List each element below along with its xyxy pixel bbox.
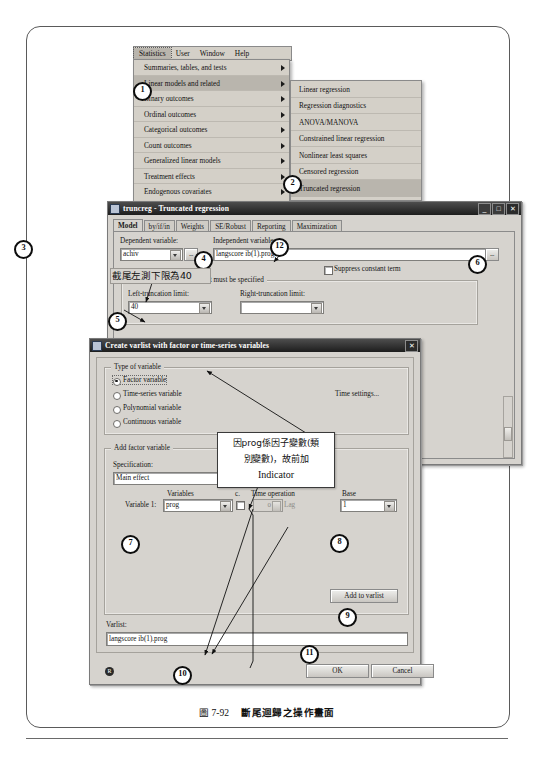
close-icon[interactable]: ✕ <box>506 203 519 215</box>
varlist-title: Create varlist with factor or time-serie… <box>105 341 269 350</box>
callout-3: 3 <box>14 240 33 259</box>
chevron-down-icon[interactable] <box>311 303 322 314</box>
chevron-down-icon[interactable] <box>199 303 210 314</box>
maximize-icon[interactable]: □ <box>492 203 505 215</box>
independent-variables-input[interactable]: langscore ib(1).prog <box>213 248 487 261</box>
callout-9: 9 <box>338 608 357 627</box>
menu-item-summaries[interactable]: Summaries, tables, and tests <box>134 60 289 76</box>
submenu-item-truncated-regression[interactable]: Truncated regression <box>291 180 421 197</box>
submenu-item-regression-diagnostics[interactable]: Regression diagnostics <box>291 98 421 115</box>
menu-item-glm[interactable]: Generalized linear models <box>134 153 289 169</box>
specification-label: Specification: <box>113 461 153 469</box>
truncreg-title: truncreg - Truncated regression <box>123 204 229 213</box>
right-truncation-select[interactable] <box>240 301 324 314</box>
menubar-item-window[interactable]: Window <box>195 48 230 59</box>
radio-time-series-variable[interactable]: Time-series variable <box>113 390 182 398</box>
menu-item-label: Truncated regression <box>299 184 360 193</box>
cancel-button[interactable]: Cancel <box>371 664 434 678</box>
window-controls[interactable]: _ □ ✕ <box>478 203 519 215</box>
truncreg-titlebar[interactable]: truncreg - Truncated regression _ □ ✕ <box>108 202 521 215</box>
annotation-line-3: Indicator <box>218 467 334 483</box>
dependent-variable-select[interactable]: achiv <box>120 248 183 261</box>
menu-item-label: Categorical outcomes <box>144 125 207 134</box>
menu-item-label: Censored regression <box>299 167 358 176</box>
menu-item-label: Nonlinear least squares <box>299 151 367 160</box>
figure-number: 圖 7-92 <box>199 707 229 718</box>
menu-item-label: Summaries, tables, and tests <box>144 63 226 72</box>
menu-item-label: Constrained linear regression <box>299 134 385 143</box>
menu-item-label: Ordinal outcomes <box>144 110 196 119</box>
spinner-arrows-icon[interactable] <box>272 501 281 512</box>
submenu-item-linear-regression[interactable]: Linear regression <box>291 81 421 98</box>
column-header-c: c. <box>235 490 240 498</box>
varlist-input[interactable]: langscore ib(1).prog <box>106 632 408 646</box>
variable-1-value: prog <box>166 500 179 511</box>
menubar-item-user[interactable]: User <box>171 48 195 59</box>
scrollbar-thumb[interactable] <box>504 427 512 441</box>
independent-variables-label: Independent variables: <box>213 237 278 245</box>
callout-2: 2 <box>283 175 302 194</box>
column-header-base: Base <box>342 490 356 498</box>
annotation-line-1: 因prog係因子變數(類 <box>218 435 334 451</box>
menu-item-categorical-outcomes[interactable]: Categorical outcomes <box>134 122 289 138</box>
close-icon[interactable]: ✕ <box>405 340 418 352</box>
submenu-item-censored-regression[interactable]: Censored regression <box>291 164 421 181</box>
window-controls[interactable]: ✕ <box>405 340 418 352</box>
lag-value: 0 <box>268 500 272 511</box>
left-truncation-select[interactable]: 40 <box>128 301 212 314</box>
submenu-item-constrained-linear-regression[interactable]: Constrained linear regression <box>291 131 421 148</box>
submenu-arrow-icon <box>281 96 285 102</box>
submenu-item-anova-manova[interactable]: ANOVA/MANOVA <box>291 114 421 131</box>
callout-6: 6 <box>468 255 487 274</box>
suppress-constant-checkbox[interactable]: Suppress constant term <box>324 265 401 273</box>
annotation-line-2: 別變數)，故前加 <box>218 451 334 467</box>
chevron-down-icon[interactable] <box>170 250 181 261</box>
radio-factor-variable[interactable]: Factor variable <box>113 376 166 384</box>
callout-5: 5 <box>108 312 127 331</box>
stata-window-icon <box>110 204 120 214</box>
radio-continuous-variable[interactable]: Continuous variable <box>113 418 181 426</box>
page-footer-rule <box>26 738 508 739</box>
menu-item-count-outcomes[interactable]: Count outcomes <box>134 138 289 154</box>
variable-1-select[interactable]: prog <box>163 499 233 512</box>
varlist-titlebar[interactable]: Create varlist with factor or time-serie… <box>90 339 420 352</box>
chevron-down-icon[interactable] <box>220 501 231 512</box>
add-factor-variable-title: Add factor variable <box>111 444 173 452</box>
menu-item-label: Count outcomes <box>144 141 192 150</box>
menu-item-label: Linear regression <box>299 85 350 94</box>
chevron-down-icon[interactable] <box>384 501 395 512</box>
factor-variable-annotation: 因prog係因子變數(類 別變數)，故前加 Indicator <box>217 432 335 488</box>
menu-item-endogenous-covariates[interactable]: Endogenous covariates <box>134 184 289 200</box>
dependent-variable-label: Dependent variable: <box>120 237 178 245</box>
radio-polynomial-variable[interactable]: Polynomial variable <box>113 404 181 412</box>
column-header-variables: Variables <box>167 490 194 498</box>
variable-1-lag-spinner[interactable]: 0 <box>253 499 283 512</box>
linear-models-submenu[interactable]: Linear regression Regression diagnostics… <box>290 80 422 201</box>
menu-item-binary-outcomes[interactable]: Binary outcomes <box>134 91 289 107</box>
statistics-menu[interactable]: Summaries, tables, and tests Linear mode… <box>133 59 290 203</box>
ok-button[interactable]: OK <box>306 664 369 678</box>
menu-item-label: Linear models and related <box>144 79 220 88</box>
specification-value: Main effect <box>116 473 149 484</box>
stata-window-icon <box>92 341 102 351</box>
screenshot-page: Statistics User Window Help Summaries, t… <box>0 0 534 781</box>
menu-item-label: Binary outcomes <box>144 94 194 103</box>
submenu-arrow-icon <box>281 158 285 164</box>
time-settings-button[interactable]: Time settings... <box>335 390 379 398</box>
minimize-icon[interactable]: _ <box>478 203 491 215</box>
figure-title: 斷尾迴歸之操作畫面 <box>241 707 335 718</box>
callout-8: 8 <box>330 534 349 553</box>
menubar-item-statistics[interactable]: Statistics <box>134 48 171 59</box>
variable-1-base-select[interactable]: 1 <box>340 499 397 512</box>
figure-caption: 圖 7-92 斷尾迴歸之操作畫面 <box>0 705 534 719</box>
menu-item-treatment-effects[interactable]: Treatment effects <box>134 169 289 185</box>
submenu-arrow-icon <box>281 112 285 118</box>
menu-item-linear-models[interactable]: Linear models and related <box>134 76 289 92</box>
truncreg-scrollbar[interactable] <box>503 396 513 458</box>
independent-variables-browse-button[interactable]: ... <box>485 248 499 261</box>
add-to-varlist-button[interactable]: Add to varlist <box>330 589 398 603</box>
varlist-help-icon[interactable]: R <box>105 667 114 676</box>
menubar-item-help[interactable]: Help <box>230 48 254 59</box>
menu-item-ordinal-outcomes[interactable]: Ordinal outcomes <box>134 107 289 123</box>
submenu-item-nonlinear-least-squares[interactable]: Nonlinear least squares <box>291 147 421 164</box>
